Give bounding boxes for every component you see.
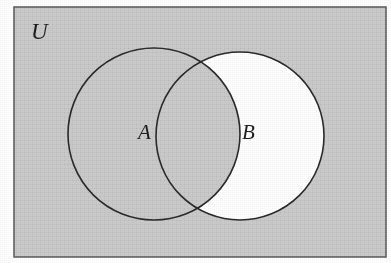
- set-b-label: B: [242, 122, 255, 143]
- set-a-label: A: [138, 122, 151, 143]
- venn-diagram-figure: U A B: [0, 0, 391, 263]
- venn-diagram-canvas: [0, 0, 391, 263]
- region-b-only-unshaded: [0, 0, 391, 263]
- universe-label: U: [31, 20, 48, 43]
